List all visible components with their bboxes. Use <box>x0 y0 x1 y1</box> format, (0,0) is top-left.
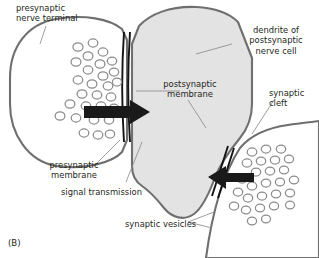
label-synaptic-vesicles: synaptic vesicles <box>125 219 196 229</box>
label-synaptic-cleft: synaptic cleft <box>269 88 304 109</box>
label-postsynaptic-membrane: postsynaptic membrane <box>148 79 232 100</box>
figure-root: presynaptic nerve terminal dendrite of p… <box>0 0 319 258</box>
label-presynaptic-nerve-terminal: presynaptic nerve terminal <box>16 3 78 24</box>
label-signal-transmission: signal transmission <box>61 187 142 197</box>
postsynaptic-membrane-line <box>128 32 130 142</box>
label-presynaptic-membrane: presynaptic membrane <box>32 160 116 181</box>
presynaptic-membrane-outline <box>10 17 127 167</box>
panel-identifier: (B) <box>8 238 21 248</box>
presynaptic-nerve-terminal <box>10 17 127 167</box>
label-dendrite-of-postsynaptic-nerve-cell: dendrite of postsynaptic nerve cell <box>236 25 316 56</box>
